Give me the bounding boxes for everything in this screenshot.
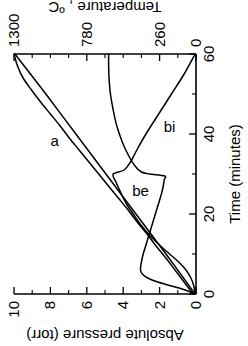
y-tick-label: 6 [78, 301, 95, 309]
y-tick-label: 4 [114, 301, 131, 309]
x-axis-title: Time (minutes) [226, 124, 243, 223]
rotated-chart-wrapper: 0204060 0246810 02607801300 abebi Time (… [0, 0, 248, 346]
y2-tick-label: 0 [187, 39, 204, 47]
curve-label-a: a [50, 132, 59, 149]
x-axis-tick-labels: 0204060 [200, 46, 217, 299]
y2-axis-title: Temperature , ºC [48, 0, 161, 16]
x-tick-label: 60 [200, 46, 217, 63]
y2-tick-label: 780 [78, 22, 95, 47]
y-axis-ticks [14, 287, 196, 294]
curve-a [14, 54, 193, 294]
y2-tick-label: 260 [151, 22, 168, 47]
y2-axis-ticks [14, 54, 196, 61]
y-axis-title: Absolute pressure (torr) [26, 327, 184, 344]
x-tick-label: 20 [200, 206, 217, 223]
curve-label-bi: bi [164, 118, 176, 135]
x-tick-label: 0 [200, 290, 217, 298]
curve-label-be: be [132, 182, 149, 199]
y-tick-label: 0 [187, 301, 204, 309]
curve-bi [109, 54, 195, 294]
data-curves [14, 54, 195, 294]
line-chart: 0204060 0246810 02607801300 abebi Time (… [0, 0, 248, 346]
y-tick-label: 8 [41, 301, 58, 309]
x-tick-label: 40 [200, 126, 217, 143]
y2-axis-tick-labels: 02607801300 [5, 14, 204, 47]
curve-annotations: abebi [50, 118, 175, 199]
x-axis-ticks [189, 54, 196, 294]
curve-pressure-ramp [15, 54, 195, 294]
y-tick-label: 10 [5, 301, 22, 318]
figure-canvas: 0204060 0246810 02607801300 abebi Time (… [0, 0, 248, 346]
y-axis-tick-labels: 0246810 [5, 301, 204, 318]
y2-tick-label: 1300 [5, 14, 22, 47]
y-tick-label: 2 [151, 301, 168, 309]
